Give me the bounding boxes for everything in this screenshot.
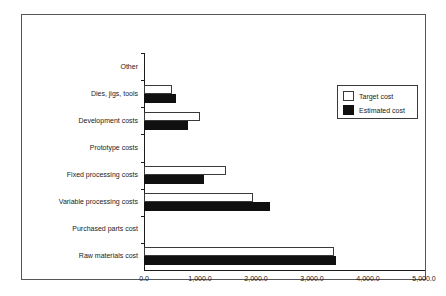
legend-item-target-cost: Target cost (343, 90, 393, 102)
chart-legend: Target cost Estimated cost (337, 85, 418, 119)
chart-category-row: Other (144, 53, 424, 80)
bar-estimated-cost (144, 256, 336, 265)
x-tick-label: 4,000.0 (356, 275, 379, 282)
legend-swatch-estimated-cost (343, 105, 354, 115)
bar-target-cost (144, 166, 226, 175)
category-label: Variable processing costs (59, 198, 138, 206)
figure-border: Raw materials costPurchased parts costVa… (21, 14, 426, 280)
x-tick-label: 3,000.0 (300, 275, 323, 282)
y-axis-tick (141, 80, 145, 81)
legend-label-estimated-cost: Estimated cost (359, 107, 405, 114)
category-label: Fixed processing costs (67, 171, 138, 179)
bar-target-cost (144, 112, 200, 121)
category-label: Prototype costs (90, 144, 138, 152)
category-label: Raw materials cost (79, 252, 138, 260)
x-axis-line (144, 270, 425, 271)
chart-category-row: Raw materials cost (144, 243, 424, 270)
bar-target-cost (144, 85, 172, 94)
bar-estimated-cost (144, 94, 176, 103)
y-axis-tick (141, 134, 145, 135)
x-tick-label: 0.0 (139, 275, 149, 282)
y-axis-tick (141, 243, 145, 244)
bar-target-cost (144, 247, 334, 256)
bar-estimated-cost (144, 121, 188, 130)
legend-swatch-target-cost (343, 91, 354, 101)
legend-item-estimated-cost: Estimated cost (343, 104, 405, 116)
y-axis-tick (141, 107, 145, 108)
x-tick-label: 5,000.0 (412, 275, 435, 282)
y-axis-tick (141, 216, 145, 217)
x-tick-label: 1,000.0 (188, 275, 211, 282)
x-tick-label: 2,000.0 (244, 275, 267, 282)
bar-estimated-cost (144, 202, 270, 211)
y-axis-tick (141, 189, 145, 190)
bar-estimated-cost (144, 175, 204, 184)
category-label: Development costs (78, 117, 138, 125)
chart-category-row: Fixed processing costs (144, 162, 424, 189)
bar-target-cost (144, 193, 253, 202)
category-label: Other (120, 63, 138, 71)
category-label: Dies, jigs, tools (91, 90, 138, 98)
legend-label-target-cost: Target cost (359, 93, 393, 100)
chart-figure: Raw materials costPurchased parts costVa… (0, 0, 446, 296)
chart-category-row: Purchased parts cost (144, 216, 424, 243)
chart-category-row: Variable processing costs (144, 189, 424, 216)
y-axis-tick (141, 53, 145, 54)
chart-category-row: Prototype costs (144, 134, 424, 161)
y-axis-tick (141, 162, 145, 163)
category-label: Purchased parts cost (72, 225, 138, 233)
